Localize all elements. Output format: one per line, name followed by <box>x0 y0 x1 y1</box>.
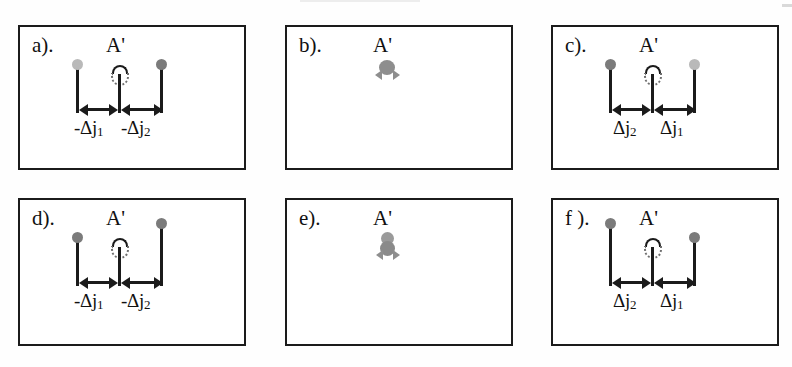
arrow-head-right <box>154 277 163 289</box>
measure-arrow-right <box>121 103 163 117</box>
measure-arrow-left <box>79 103 118 117</box>
arrow-head-right <box>642 277 651 289</box>
arrow-shaft <box>85 281 112 284</box>
right-particle-ball <box>689 232 700 243</box>
measure-label-text: Δj <box>613 290 630 311</box>
panel-d: d).A'-Δj1-Δj2 <box>18 198 246 346</box>
diagram-stage <box>287 200 511 344</box>
diagram-stage: -Δj1-Δj2 <box>20 200 244 344</box>
arrow-shaft <box>127 281 157 284</box>
arrow-shaft <box>127 108 157 111</box>
measure-arrow-left <box>79 276 118 290</box>
measure-label-text: -Δj <box>121 117 144 138</box>
measure-label-right: Δj1 <box>660 290 683 312</box>
measure-label-text: -Δj <box>121 290 144 311</box>
arrow-head-right <box>687 104 696 116</box>
collapsed-particle-cluster <box>375 59 401 93</box>
diagram-stage: Δj2Δj1 <box>553 200 777 344</box>
measure-label-left: Δj2 <box>613 117 636 139</box>
measure-arrow-right <box>654 276 696 290</box>
measure-label-left: Δj2 <box>613 290 636 312</box>
panel-b: b).A' <box>285 25 513 170</box>
measure-arrow-right <box>654 103 696 117</box>
arrow-head-left <box>121 104 130 116</box>
collapsed-particle-cluster <box>375 232 401 266</box>
arrow-head-left <box>79 277 88 289</box>
cluster-stub-right <box>393 250 400 260</box>
measure-label-text: Δj <box>660 117 677 138</box>
panel-a: a).A'-Δj1-Δj2 <box>18 25 246 170</box>
arrow-head-right <box>109 104 118 116</box>
measure-arrow-right <box>121 276 163 290</box>
measure-label-left: -Δj1 <box>74 290 103 312</box>
right-particle-ball <box>689 59 700 70</box>
measure-label-text: Δj <box>660 290 677 311</box>
arrow-head-left <box>79 104 88 116</box>
arrow-head-left <box>612 277 621 289</box>
measure-label-subscript: 2 <box>630 124 636 139</box>
measure-label-subscript: 1 <box>677 297 683 312</box>
measure-arrow-left <box>612 276 651 290</box>
cluster-stub-left <box>376 250 383 260</box>
arrow-head-left <box>612 104 621 116</box>
right-particle-ball <box>156 218 167 229</box>
left-particle-ball <box>72 232 83 243</box>
left-particle-ball <box>605 218 616 229</box>
arrow-head-left <box>654 277 663 289</box>
measure-label-subscript: 1 <box>677 124 683 139</box>
cluster-stub-right <box>393 70 400 80</box>
panel-f: f ).A'Δj2Δj1 <box>551 198 779 346</box>
measure-arrow-left <box>612 103 651 117</box>
arrow-shaft <box>618 281 645 284</box>
measure-label-subscript: 2 <box>630 297 636 312</box>
panel-e: e).A' <box>285 198 513 346</box>
arrow-shaft <box>660 281 690 284</box>
arrow-head-right <box>642 104 651 116</box>
measure-label-text: Δj <box>613 117 630 138</box>
measure-label-subscript: 1 <box>97 297 103 312</box>
arrow-shaft <box>618 108 645 111</box>
left-particle-ball <box>72 59 83 70</box>
measure-label-right: -Δj2 <box>121 117 150 139</box>
measure-label-left: -Δj1 <box>74 117 103 139</box>
arrow-shaft <box>660 108 690 111</box>
arrow-head-left <box>654 104 663 116</box>
measure-label-right: -Δj2 <box>121 290 150 312</box>
panel-grid: a).A'-Δj1-Δj2b).A'c).A'Δj2Δj1d).A'-Δj1-Δ… <box>0 0 792 367</box>
measure-label-subscript: 2 <box>144 124 150 139</box>
measure-label-subscript: 2 <box>144 297 150 312</box>
right-particle-ball <box>156 59 167 70</box>
measure-label-text: -Δj <box>74 290 97 311</box>
cluster-stub-left <box>375 70 382 80</box>
arrow-head-left <box>121 277 130 289</box>
left-particle-ball <box>605 59 616 70</box>
diagram-stage: Δj2Δj1 <box>553 27 777 168</box>
figure-canvas: a).A'-Δj1-Δj2b).A'c).A'Δj2Δj1d).A'-Δj1-Δ… <box>0 0 792 367</box>
arrow-head-right <box>109 277 118 289</box>
measure-label-subscript: 1 <box>97 124 103 139</box>
panel-c: c).A'Δj2Δj1 <box>551 25 779 170</box>
measure-label-right: Δj1 <box>660 117 683 139</box>
measure-label-text: -Δj <box>74 117 97 138</box>
arrow-head-right <box>154 104 163 116</box>
arrow-head-right <box>687 277 696 289</box>
diagram-stage <box>287 27 511 168</box>
diagram-stage: -Δj1-Δj2 <box>20 27 244 168</box>
arrow-shaft <box>85 108 112 111</box>
